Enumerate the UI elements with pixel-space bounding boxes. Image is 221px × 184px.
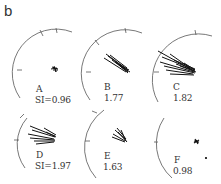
rose-data-e (112, 128, 127, 142)
plot-a-si: SI=0.96 (35, 95, 71, 105)
rose-plot-f (154, 118, 172, 178)
plot-b-label: B (104, 82, 110, 92)
plot-d-label: D (36, 150, 43, 160)
rose-plots-figure (0, 0, 221, 184)
plot-f-label: F (174, 155, 180, 165)
plot-d-si: SI=1.97 (35, 161, 71, 171)
plot-e-si: 1.63 (103, 162, 122, 172)
plot-c-si: 1.82 (173, 93, 192, 103)
plot-f-si: 0.98 (173, 166, 192, 176)
rose-data-b (104, 54, 130, 73)
plot-a-label: A (36, 84, 42, 94)
rose-plot-d (14, 114, 27, 168)
rose-data-c (158, 51, 196, 75)
rose-data-d (28, 126, 56, 144)
rose-data-f (194, 139, 207, 159)
rose-plot-e (85, 110, 104, 178)
plot-c-label: C (173, 82, 180, 92)
rose-data-a (51, 66, 58, 72)
plot-b-si: 1.77 (104, 93, 123, 103)
rose-plot-b (81, 28, 142, 100)
plot-e-label: E (104, 151, 110, 161)
